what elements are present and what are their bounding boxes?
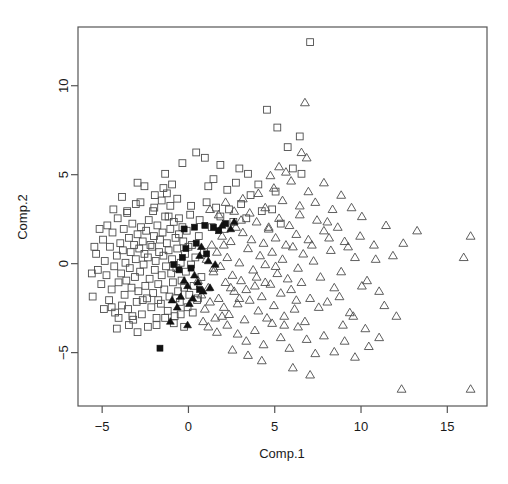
- plot-canvas: −5051015 −50510 Comp.1 Comp.2: [0, 0, 508, 484]
- data-point-filled-square: [216, 228, 222, 234]
- data-point-filled-square: [188, 265, 194, 271]
- data-point-filled-square: [183, 246, 189, 252]
- data-point-filled-square: [179, 254, 185, 260]
- scatter-plot-figure: −5051015 −50510 Comp.1 Comp.2: [0, 0, 508, 484]
- x-tick-label: 5: [271, 419, 278, 434]
- y-tick-label: 0: [57, 260, 72, 267]
- x-tick-label: 15: [440, 419, 454, 434]
- y-axis-title: Comp.2: [15, 194, 30, 240]
- y-tick-label: 10: [57, 78, 72, 92]
- x-tick-label: 10: [354, 419, 368, 434]
- x-tick-label: 0: [185, 419, 192, 434]
- data-point-filled-square: [193, 240, 199, 246]
- data-point-filled-square: [181, 226, 187, 232]
- x-tick-label: −5: [95, 419, 110, 434]
- y-tick-label: 5: [57, 171, 72, 178]
- data-point-filled-square: [191, 224, 197, 230]
- data-point-filled-square: [157, 345, 163, 351]
- data-point-filled-square: [171, 262, 177, 268]
- x-axis-title: Comp.1: [259, 446, 305, 461]
- figure-background: [0, 0, 508, 484]
- y-tick-label: −5: [57, 345, 72, 360]
- data-point-filled-square: [204, 251, 210, 257]
- data-point-filled-square: [202, 222, 208, 228]
